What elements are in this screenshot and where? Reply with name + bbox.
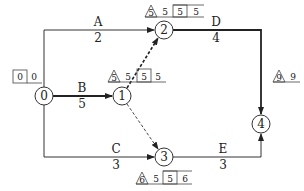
node-0-label: 0 [40,89,48,103]
node-1-label: 1 [118,89,126,103]
node-1-triangle-time: 5 [111,73,117,83]
activity-D-duration: 4 [212,31,220,45]
node-3-plain2-time: 6 [182,174,188,184]
node-1-plain1-time: 5 [125,72,131,82]
network-diagram: A 2 B 5 C 3 D 4 E 3 0 0 0 [0,0,304,191]
node-2-triangle-time: 5 [148,8,154,18]
node-2-plain1-time: 5 [162,7,168,17]
activity-A-duration: 2 [94,31,102,45]
activity-A-arrow: A 2 [44,15,154,87]
node-4-label: 4 [257,117,265,131]
node-3-label: 3 [160,150,168,164]
node-4-times: 9 9 [273,70,300,83]
node-0-plain-time: 0 [31,72,37,82]
dummy-activity-1-3 [127,104,158,149]
node-3-triangle-time: 6 [139,175,145,185]
activity-C-duration: 3 [112,158,120,172]
node-4: 4 [252,115,270,133]
node-0-times: 0 0 [13,70,42,83]
node-0-box-time: 0 [17,72,23,82]
node-2-box-time: 5 [177,7,183,17]
node-2: 2 [155,21,173,39]
node-3: 3 [155,148,173,166]
node-1-times: 5 5 5 5 [108,69,166,83]
node-0: 0 [35,87,53,105]
activity-E-duration: 3 [219,158,227,172]
activity-C-label: C [111,142,120,156]
activity-B-duration: 5 [78,97,86,111]
activity-C-arrow: C 3 [44,105,154,172]
activity-D-arrow: D 4 [173,15,261,114]
activity-E-label: E [219,142,228,156]
activity-B-arrow: B 5 [53,81,112,111]
activity-D-label: D [211,15,221,29]
node-2-label: 2 [160,23,168,37]
node-1-box-time: 5 [141,72,147,82]
node-2-plain2-time: 5 [193,7,199,17]
node-1: 1 [113,87,131,105]
node-3-times: 6 5 5 6 [136,171,192,185]
activity-A-label: A [93,15,103,29]
node-3-plain1-time: 5 [153,174,159,184]
activity-B-label: B [78,81,87,95]
node-1-plain2-time: 5 [155,72,161,82]
node-4-triangle-time: 9 [276,73,282,83]
node-4-plain-time: 9 [290,72,296,82]
node-2-times: 5 5 5 5 [145,5,204,18]
activity-E-arrow: E 3 [173,134,261,172]
node-3-box-time: 5 [167,174,173,184]
